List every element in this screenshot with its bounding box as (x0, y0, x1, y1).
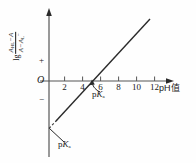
origin-label: O (37, 75, 44, 85)
pka-label-intercept: pKa (92, 90, 105, 99)
x-axis-ticks (65, 77, 155, 82)
x-tick-label-2: 2 (58, 83, 72, 92)
y-axis-title-denominator: A−AL− (17, 32, 26, 53)
y-axis-title-fraction: AHL−A A−AL− (8, 32, 26, 54)
x-tick-label-4: 4 (76, 83, 90, 92)
y-axis-negative-sign: − (39, 95, 44, 104)
x-tick-label-8: 8 (112, 83, 126, 92)
y-axis-title: lg AHL−A A−AL− (8, 0, 26, 61)
y-axis-arrow-icon (46, 8, 52, 16)
chart-figure: O + − 2 4 6 8 10 12 pH值 lg AHL−A A−AL− p… (0, 0, 196, 163)
data-line-main (56, 19, 150, 121)
x-axis-title: pH值 (159, 84, 180, 93)
pka-label-extrapolated: pKa (58, 140, 71, 149)
x-tick-label-10: 10 (130, 83, 144, 92)
y-axis-positive-sign: + (39, 56, 44, 65)
y-axis-title-lg: lg (13, 55, 22, 61)
y-axis-title-numerator: AHL−A (8, 32, 15, 54)
